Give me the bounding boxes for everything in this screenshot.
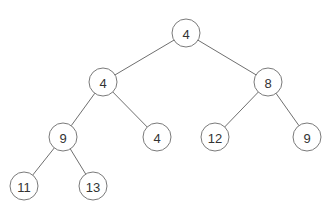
- tree-node-right: 8: [254, 68, 282, 96]
- tree-nodes: 4 4 8 9 4 12 9 11: [10, 19, 321, 200]
- node-label: 8: [264, 76, 271, 91]
- tree-node-right-left: 12: [201, 123, 229, 151]
- tree-node-right-right: 9: [293, 123, 321, 151]
- binary-tree-diagram: 4 4 8 9 4 12 9 11: [0, 0, 333, 215]
- node-label: 9: [59, 131, 66, 146]
- tree-node-left-left-left: 11: [10, 172, 38, 200]
- node-label: 11: [17, 180, 31, 195]
- tree-node-left: 4: [89, 68, 117, 96]
- tree-edges: [24, 33, 307, 186]
- node-label: 13: [86, 180, 100, 195]
- node-label: 4: [99, 76, 106, 91]
- node-label: 12: [208, 131, 222, 146]
- tree-node-left-left-right: 13: [79, 172, 107, 200]
- tree-node-left-left: 9: [49, 123, 77, 151]
- node-label: 4: [153, 131, 160, 146]
- node-label: 4: [182, 27, 189, 42]
- tree-node-left-right: 4: [143, 123, 171, 151]
- node-label: 9: [303, 131, 310, 146]
- tree-node-root: 4: [172, 19, 200, 47]
